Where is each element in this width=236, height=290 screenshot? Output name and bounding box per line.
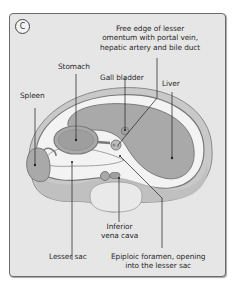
label-line: Epiploic foramen, opening [111, 252, 205, 261]
label-stomach: Stomach [58, 62, 90, 71]
label-spleen: Spleen [20, 91, 45, 100]
label-liver: Liver [162, 79, 180, 88]
vertebra [90, 182, 142, 212]
label-line: into the lesser sac [111, 261, 205, 270]
label-inferior-vena-cava: Inferior vena cava [101, 222, 138, 241]
label-line: vena cava [101, 231, 138, 240]
label-lesser-sac: Lesser sac [49, 252, 87, 261]
label-gall-bladder: Gall bladder [100, 73, 144, 82]
label-free-edge-omentum: Free edge of lesser omentum with portal … [100, 24, 200, 52]
label-line: omentum with portal vein, [100, 33, 200, 42]
panel-letter-badge: C [15, 19, 30, 34]
spleen [27, 148, 50, 182]
aorta [101, 172, 110, 181]
label-line: hepatic artery and bile duct [100, 43, 200, 52]
label-line: Inferior [101, 222, 138, 231]
label-epiploic-foramen: Epiploic foramen, opening into the lesse… [111, 252, 205, 271]
label-line: Free edge of lesser [100, 24, 200, 33]
